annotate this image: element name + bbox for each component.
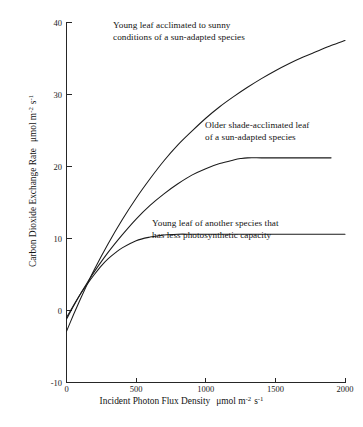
- curve-low-capacity-young-leaf: [67, 234, 346, 318]
- annotation-sun-adapted-young-leaf: Young leaf acclimated to sunny condition…: [113, 19, 245, 44]
- curve-sun-adapted-young-leaf: [67, 41, 346, 332]
- annotation-line: of a sun-adapted species: [205, 131, 309, 143]
- y-tick-label: 30: [54, 90, 63, 100]
- x-tick-label: 500: [130, 384, 143, 394]
- y-axis-label: Carbon Dioxide Exchange Rateμmol m-2s-1: [28, 66, 38, 296]
- x-axis-ticks: [67, 378, 346, 383]
- y-axis-unit-exp-area: -2: [27, 107, 34, 113]
- annotation-line: has less photosynthetic capacity: [152, 229, 279, 241]
- y-tick-label: 10: [54, 234, 63, 244]
- annotation-low-capacity-young-leaf: Young leaf of another species that has l…: [152, 217, 279, 242]
- x-axis-unit-mu: μmol m: [216, 396, 245, 406]
- annotation-line: Older shade-acclimated leaf: [205, 119, 309, 131]
- x-axis-label: Incident Photon Flux Densityμmol m-2s-1: [0, 396, 363, 406]
- x-tick-label: 0: [64, 384, 68, 394]
- y-axis-unit-s: s: [28, 101, 38, 105]
- x-tick-label: 1500: [267, 384, 284, 394]
- y-tick-label: 40: [54, 18, 63, 28]
- y-tick-labels: 40 30 20 10 0 -10: [51, 18, 62, 388]
- y-tick-label: 0: [58, 306, 62, 316]
- y-axis-unit-exp-time: -1: [27, 95, 34, 101]
- y-tick-label: -10: [51, 378, 62, 388]
- curves-group: [67, 41, 346, 332]
- y-tick-label: 20: [54, 162, 63, 172]
- light-response-curve-figure: 40 30 20 10 0 -10 0 500 1000 1500 2000 Y…: [0, 0, 363, 427]
- annotation-line: Young leaf acclimated to sunny: [113, 19, 245, 31]
- x-axis-label-main: Incident Photon Flux Density: [100, 396, 211, 406]
- annotation-line: conditions of a sun-adapted species: [113, 31, 245, 43]
- annotation-line: Young leaf of another species that: [152, 217, 279, 229]
- chart-plot-area: 40 30 20 10 0 -10 0 500 1000 1500 2000: [0, 0, 363, 427]
- x-tick-label: 2000: [337, 384, 354, 394]
- x-tick-label: 1000: [197, 384, 214, 394]
- x-tick-labels: 0 500 1000 1500 2000: [64, 384, 353, 394]
- annotation-shade-acclimated-older-leaf: Older shade-acclimated leaf of a sun-ada…: [205, 119, 309, 144]
- y-axis-label-main: Carbon Dioxide Exchange Rate: [28, 148, 38, 267]
- y-axis-unit-mu: μmol m: [28, 113, 38, 142]
- x-axis-unit-exp-area: -2: [246, 395, 252, 402]
- x-axis-unit-exp-time: -1: [258, 395, 264, 402]
